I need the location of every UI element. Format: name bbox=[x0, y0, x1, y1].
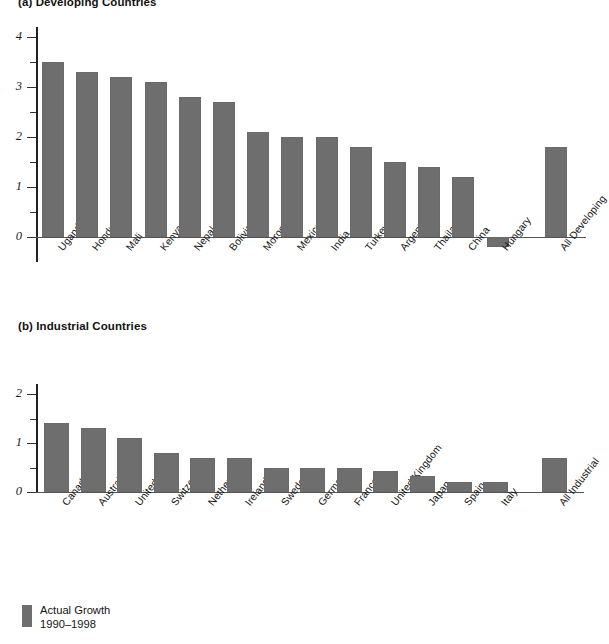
panel-b-title: (b) Industrial Countries bbox=[18, 320, 147, 332]
y-tick-label: 4 bbox=[6, 29, 22, 44]
legend-swatch-actual-growth bbox=[22, 605, 32, 627]
bar bbox=[337, 468, 362, 493]
chart-developing-countries: 01234UgandaHondurasMaliKenyaNepalBolivia… bbox=[0, 24, 605, 324]
bar bbox=[452, 177, 474, 237]
bar bbox=[81, 428, 106, 492]
legend-label-line2: 1990–1998 bbox=[40, 618, 110, 632]
y-tick-label: 1 bbox=[6, 435, 22, 450]
bar bbox=[190, 458, 215, 492]
chart-industrial-countries: 012CanadaAustraliaUnited StatesSwitzerla… bbox=[0, 382, 605, 582]
bar bbox=[316, 137, 338, 237]
y-tick-minor bbox=[30, 62, 36, 63]
bar bbox=[42, 62, 64, 237]
y-tick-major bbox=[27, 37, 36, 38]
bar bbox=[542, 458, 567, 492]
panel-a-title: (a) Developing Countries bbox=[18, 0, 157, 8]
bar bbox=[418, 167, 440, 237]
y-tick-minor bbox=[30, 212, 36, 213]
bar bbox=[117, 438, 142, 492]
y-tick-minor bbox=[30, 112, 36, 113]
bar bbox=[264, 468, 289, 493]
y-tick-label: 3 bbox=[6, 79, 22, 94]
bar bbox=[76, 72, 98, 237]
y-tick-label: 2 bbox=[6, 129, 22, 144]
bar bbox=[483, 482, 508, 492]
y-tick-major bbox=[27, 237, 36, 238]
bar bbox=[545, 147, 567, 237]
bar bbox=[44, 423, 69, 492]
y-tick-minor bbox=[30, 468, 36, 469]
bar bbox=[447, 482, 472, 492]
legend: Actual Growth 1990–1998 bbox=[22, 604, 110, 631]
x-axis-label: Hungary bbox=[500, 215, 533, 253]
bar bbox=[227, 458, 252, 492]
y-tick-minor bbox=[30, 419, 36, 420]
legend-label-line1: Actual Growth bbox=[40, 604, 110, 618]
bar bbox=[154, 453, 179, 492]
bar bbox=[350, 147, 372, 237]
y-tick-major bbox=[27, 137, 36, 138]
bar bbox=[247, 132, 269, 237]
bar bbox=[179, 97, 201, 237]
bar bbox=[110, 77, 132, 237]
bar bbox=[410, 476, 435, 492]
y-tick-label: 1 bbox=[6, 179, 22, 194]
y-tick-minor bbox=[30, 162, 36, 163]
y-tick-major bbox=[27, 87, 36, 88]
bar bbox=[281, 137, 303, 237]
bar bbox=[373, 471, 398, 492]
y-tick-label: 2 bbox=[6, 386, 22, 401]
y-tick-major bbox=[27, 443, 36, 444]
bar bbox=[300, 468, 325, 493]
y-tick-label: 0 bbox=[6, 484, 22, 499]
legend-label: Actual Growth 1990–1998 bbox=[40, 604, 110, 631]
y-tick-major bbox=[27, 187, 36, 188]
y-tick-major bbox=[27, 492, 36, 493]
bar bbox=[213, 102, 235, 237]
zero-baseline bbox=[36, 492, 584, 493]
bar bbox=[384, 162, 406, 237]
bar bbox=[145, 82, 167, 237]
y-axis-line bbox=[36, 27, 38, 262]
y-tick-label: 0 bbox=[6, 229, 22, 244]
y-tick-major bbox=[27, 394, 36, 395]
y-axis-line bbox=[36, 384, 38, 492]
